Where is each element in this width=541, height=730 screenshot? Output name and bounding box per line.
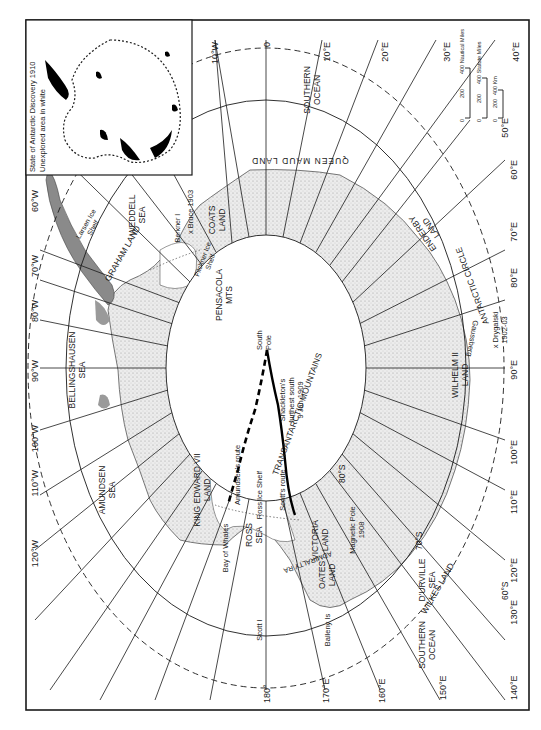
meridian-70e: 70°E (509, 222, 519, 242)
drygalski-label: x Drygalski (491, 311, 500, 348)
meridian-140e: 140°E (509, 675, 519, 700)
magnetic-pole-label: Magnetic Pole (348, 506, 357, 554)
ross-sea-label: ROSS (244, 523, 254, 547)
southern-ocean-label-1: SOUTHERN (302, 66, 312, 114)
berkner-island-label: Berkner I (174, 214, 181, 242)
inset-map: State of Antarctic Discovery 1910 Unexpl… (26, 20, 192, 175)
balleny-islands-label: Balleny Is (323, 613, 332, 646)
svg-text:OCEAN: OCEAN (427, 630, 437, 660)
svg-text:LAND: LAND (217, 209, 227, 232)
svg-text:LAND: LAND (202, 479, 212, 502)
durville-sea-label: D'URVILLE (417, 558, 427, 601)
svg-text:MTS: MTS (224, 286, 234, 304)
amundsen-sea-label: AMUNDSEN (97, 466, 107, 515)
amundsens-route-label: Amundsen's route (233, 445, 242, 505)
meridian-10e: 10°E (322, 42, 332, 62)
meridian-70w: 70°W (30, 254, 40, 277)
antarctica-exploration-map: State of Antarctic Discovery 1910 Unexpl… (0, 0, 541, 730)
svg-text:LAND: LAND (327, 564, 337, 587)
parallel-60s: 60°S (500, 581, 510, 600)
meridian-100e: 100°E (509, 440, 519, 465)
scott-island-label: Scott I (255, 619, 264, 640)
scale-nautical-label: 400 Nautical Miles (459, 29, 465, 74)
scale-km-200: 200 (492, 99, 498, 108)
scale-statute-label: 400 Statute Miles (476, 41, 482, 84)
meridian-20e: 20°E (380, 42, 390, 62)
svg-text:1908: 1908 (357, 522, 366, 539)
queen-maud-land-label: QUEEN MAUD LAND (251, 156, 349, 166)
meridian-60w: 60°W (30, 189, 40, 212)
inset-title: State of Antarctic Discovery 1910 (28, 62, 37, 172)
meridian-100w: 100°W (30, 425, 40, 453)
coats-land-label: COATS (207, 205, 217, 234)
svg-text:furthest south: furthest south (287, 377, 296, 422)
ross-ice-shelf-label: Ross Ice Shelf (255, 470, 264, 519)
oates-land-label: OATES (317, 561, 327, 590)
svg-text:LAND: LAND (460, 364, 470, 387)
scale-nautical-0: 0 (459, 119, 465, 122)
meridian-180: 180° (262, 684, 272, 703)
scale-statute-200: 200 (476, 94, 482, 103)
meridian-120w: 120°W (30, 540, 40, 568)
svg-text:LAND: LAND (320, 529, 330, 552)
meridian-160e: 160°E (377, 678, 387, 703)
scale-statute-0: 0 (476, 119, 482, 122)
scotts-route-label: Scott's route (278, 469, 287, 510)
svg-text:SEA: SEA (107, 481, 117, 498)
bay-of-whales-label: Bay of Whales (221, 524, 230, 573)
scale-km-0: 0 (492, 119, 498, 122)
southern-ocean-label-2: SOUTHERN (417, 621, 427, 669)
svg-text:1902-03: 1902-03 (500, 316, 509, 344)
bruce-1903-label: x Bruce 1903 (186, 190, 195, 234)
south-pole-label: South (255, 330, 264, 350)
king-edward-vii-land-label: KING EDWARD VII (192, 453, 202, 526)
wilhelm-ii-land-label: WILHELM II (450, 352, 460, 398)
meridian-40e: 40°E (511, 42, 521, 62)
parallel-80s: 80°S (337, 464, 347, 483)
scale-nautical-200: 200 (459, 89, 465, 98)
svg-text:SEA: SEA (137, 206, 147, 223)
inset-subtitle: Unexplored area in white (38, 89, 47, 172)
svg-text:Pole: Pole (264, 335, 273, 350)
shackleton-furthest-south-label: Shackleton's (278, 379, 287, 422)
svg-text:OCEAN: OCEAN (312, 75, 322, 105)
meridian-30e: 30°E (442, 42, 452, 62)
bellingshausen-sea-label: BELLINGSHAUSEN (67, 332, 77, 409)
parallel-70s: 70°S (414, 531, 424, 550)
meridian-80e: 80°E (509, 268, 519, 288)
meridian-110e: 110°E (509, 490, 519, 514)
meridian-170e: 170°E (321, 678, 331, 703)
meridian-150e: 150°E (438, 675, 448, 700)
meridian-110w: 110°W (30, 470, 40, 497)
victoria-land-label: VICTORIA (310, 520, 320, 560)
meridian-120e: 120°E (509, 558, 519, 583)
meridian-80w: 80°W (30, 299, 40, 322)
svg-text:9 Jan 1909: 9 Jan 1909 (296, 381, 305, 418)
meridian-10w: 10°W (210, 41, 220, 64)
meridian-90e: 90°E (509, 360, 519, 380)
scale-km-label: 400 Km (492, 76, 498, 95)
meridian-50e: 50°E (500, 118, 510, 138)
meridian-130e: 130°E (509, 600, 519, 625)
meridian-0: 0 (262, 42, 272, 47)
meridian-90w: 90°W (30, 359, 40, 382)
pensacola-mts-label: PENSACOLA (214, 269, 224, 321)
svg-text:SEA: SEA (77, 361, 87, 378)
meridian-60e: 60°E (509, 160, 519, 180)
svg-text:SEA: SEA (254, 526, 264, 543)
